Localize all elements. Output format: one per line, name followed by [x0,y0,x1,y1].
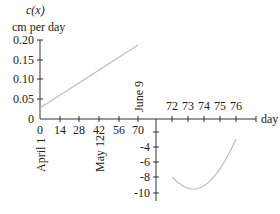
x-tick-label: 42 [93,123,105,137]
x-axis-title-word: day [261,112,278,126]
right-y-tick-labels: -4 -6 -8 -10 [134,140,150,200]
x-tick-label: 14 [54,123,66,137]
x-axis-title: day x [261,109,280,126]
y-tick-label: 0.05 [13,92,34,106]
y-tick-label: -6 [140,155,150,169]
date-label-may: May 12 [93,135,107,172]
right-x-tick-labels: 72 73 74 75 76 [166,99,242,113]
y-axis-unit: cm per day [12,20,65,34]
y-axis-title: c(x) [26,3,45,17]
date-label-april: April 1 [34,138,48,172]
x-tick-label: 73 [182,99,194,113]
x-tick-label: 28 [73,123,85,137]
left-y-tick-labels: 0.20 0.15 0.10 0.05 0 [13,33,34,126]
chart: c(x) cm per day 0.20 0.15 0.10 0.05 0 0 … [0,0,280,214]
y-tick-label: 0.10 [13,72,34,86]
x-tick-label: 72 [166,99,178,113]
x-tick-label: 0 [37,123,43,137]
y-tick-label: 0 [28,112,34,126]
x-tick-label: 70 [132,123,144,137]
linear-series-line [40,45,138,108]
quadratic-series-curve [172,139,236,189]
y-tick-label: 0.15 [13,53,34,67]
x-tick-label: 76 [230,99,242,113]
y-tick-label: -8 [140,170,150,184]
y-tick-label: 0.20 [13,33,34,47]
y-tick-label: -4 [140,140,150,154]
x-tick-label: 75 [214,99,226,113]
date-label-june: June 9 [132,81,146,112]
left-x-tick-labels: 0 14 28 42 56 70 [37,123,144,137]
x-tick-label: 74 [198,99,210,113]
y-tick-label: -10 [134,186,150,200]
x-tick-label: 56 [113,123,125,137]
